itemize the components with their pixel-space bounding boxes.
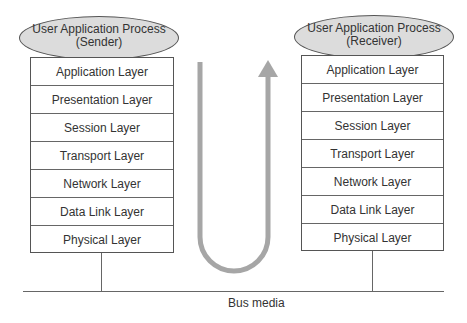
bus-media-line: [23, 291, 444, 292]
receiver-bus-connector: [372, 251, 373, 291]
sender-bus-connector: [101, 253, 102, 292]
bus-media-label: Bus media: [228, 296, 285, 310]
data-flow-u-arrow-icon: [0, 0, 467, 323]
